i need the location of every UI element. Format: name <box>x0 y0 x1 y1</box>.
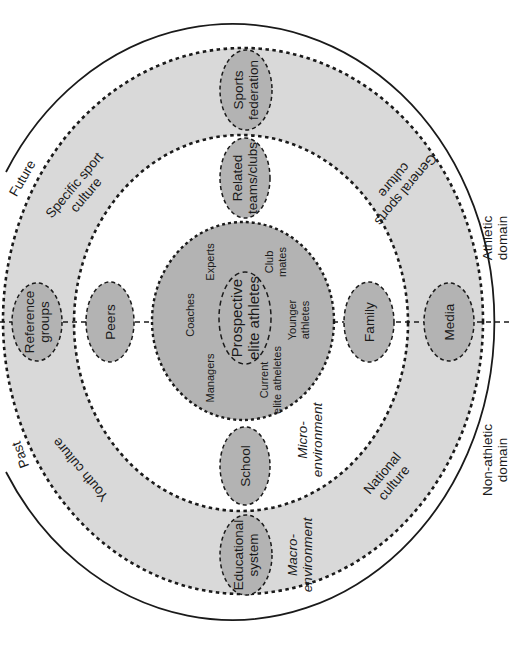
non-athletic-domain-label: Non-athletic domain <box>480 424 510 496</box>
media-label: Media <box>442 303 457 340</box>
athletic-domain-label: Athletic domain <box>480 216 510 261</box>
svg-text:Peers: Peers <box>103 304 118 340</box>
svg-text:elite atheletes: elite atheletes <box>271 346 283 414</box>
svg-text:Micro-: Micro- <box>295 421 310 459</box>
svg-text:federation: federation <box>246 60 261 120</box>
svg-text:Younger: Younger <box>286 299 298 340</box>
svg-text:domain: domain <box>495 438 510 482</box>
svg-text:Club: Club <box>263 251 275 274</box>
svg-text:Sports: Sports <box>231 70 246 109</box>
svg-text:mates: mates <box>276 247 288 277</box>
svg-text:Media: Media <box>442 303 457 340</box>
svg-text:Reference: Reference <box>22 291 37 353</box>
coaches-label: Coaches <box>184 293 196 337</box>
peers-label: Peers <box>103 304 118 340</box>
school-label: School <box>238 445 253 486</box>
svg-text:domain: domain <box>495 216 510 260</box>
svg-text:environment: environment <box>310 402 325 478</box>
svg-text:Family: Family <box>362 302 377 342</box>
svg-text:School: School <box>238 445 253 486</box>
svg-text:Athletic: Athletic <box>480 216 495 261</box>
club-mates-label: Club mates <box>263 247 288 277</box>
svg-text:groups: groups <box>37 301 52 343</box>
svg-text:Prospective: Prospective <box>228 279 245 357</box>
svg-text:Non-athletic: Non-athletic <box>480 424 495 496</box>
experts-label: Experts <box>204 243 216 281</box>
svg-text:teams/clubs: teams/clubs <box>245 142 260 214</box>
family-label: Family <box>362 302 377 342</box>
svg-text:system: system <box>246 534 261 577</box>
svg-text:Current: Current <box>258 362 270 399</box>
svg-text:Macro-: Macro- <box>285 534 300 577</box>
svg-text:elite athletes: elite athletes <box>245 276 262 360</box>
svg-text:Experts: Experts <box>204 243 216 281</box>
prospective-athletes-label: Prospective elite athletes <box>228 276 262 360</box>
svg-text:Coaches: Coaches <box>184 293 196 337</box>
talent-environment-diagram: Prospective elite athletes Experts Club … <box>0 0 521 652</box>
younger-athletes-label: Younger athletes <box>286 299 311 340</box>
managers-label: Managers <box>204 353 216 402</box>
svg-text:athletes: athletes <box>299 300 311 339</box>
svg-text:Educational: Educational <box>231 520 246 591</box>
svg-text:Managers: Managers <box>204 353 216 402</box>
svg-text:environment: environment <box>300 517 315 593</box>
svg-text:Related: Related <box>230 155 245 202</box>
